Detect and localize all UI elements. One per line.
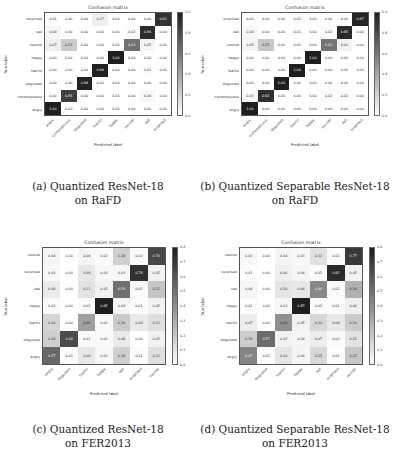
heatmap-cell: 0.00 <box>258 26 274 39</box>
heatmap-cell: 0.19 <box>240 331 257 348</box>
heatmap-grid: 0.010.000.000.070.000.000.000.910.040.00… <box>44 12 172 116</box>
heatmap-cell: 0.08 <box>113 331 130 348</box>
heatmap-cell: 0.46 <box>310 281 327 298</box>
heatmap-cell: 0.03 <box>113 265 130 282</box>
caption-line-1: (a) Quantized ResNet-18 <box>0 180 196 194</box>
heatmap-cell: 0.04 <box>292 347 309 364</box>
colorbar-tick: 0.2 <box>377 334 382 338</box>
heatmap-cell: 0.16 <box>43 314 60 331</box>
heatmap-cell: 0.00 <box>155 77 171 90</box>
colorbar-tick: 0.2 <box>185 93 190 97</box>
x-tick-label: sad <box>144 118 151 125</box>
heatmap-cell: 0.00 <box>258 51 274 64</box>
colorbar-tick: 0.8 <box>377 245 382 249</box>
colorbar-tick: 0.0 <box>180 363 185 367</box>
figure-caption: (c) Quantized ResNet-18on FER2013 <box>0 423 196 450</box>
y-tick-label: sad <box>197 287 237 291</box>
y-tick-label: sad <box>199 30 239 34</box>
heatmap-cell: 0.03 <box>292 248 309 265</box>
heatmap-cell: 0.05 <box>345 265 362 282</box>
heatmap-cell: 0.82 <box>327 265 344 282</box>
colorbar-tick: 0.5 <box>377 289 382 293</box>
heatmap-cell: 0.57 <box>43 347 60 364</box>
heatmap-cell: 0.01 <box>257 347 274 364</box>
heatmap-cell: 0.04 <box>242 26 258 39</box>
x-tick-label: neutral <box>149 367 160 378</box>
y-tick-label: contemptuous <box>199 95 239 99</box>
heatmap-cell: 0.00 <box>274 39 290 52</box>
heatmap-cell: 0.09 <box>327 314 344 331</box>
heatmap-cell: 0.00 <box>124 64 140 77</box>
heatmap-cell: 0.95 <box>337 26 353 39</box>
heatmap-cell: 0.00 <box>61 64 77 77</box>
heatmap-cell: 0.01 <box>289 26 305 39</box>
colorbar <box>374 12 380 116</box>
confusion-matrix-panel-d: Confusion matrix0.030.000.040.030.120.01… <box>197 235 393 467</box>
heatmap-cell: 0.62 <box>321 39 337 52</box>
colorbar-tick: 1.0 <box>382 10 387 14</box>
heatmap-cell: 0.00 <box>92 77 108 90</box>
heatmap-cell: 0.22 <box>148 281 165 298</box>
x-tick-label: happy <box>306 118 316 128</box>
heatmap-cell: 0.01 <box>130 298 147 315</box>
heatmap-cell: 0.06 <box>275 265 292 282</box>
heatmap-cell: 0.00 <box>321 102 337 115</box>
heatmap-cell: 0.68 <box>60 331 77 348</box>
colorbar-tick: 0.0 <box>185 114 190 118</box>
heatmap-cell: 0.04 <box>140 90 156 103</box>
heatmap-cell: 0.00 <box>305 26 321 39</box>
heatmap-cell: 0.00 <box>274 64 290 77</box>
heatmap-cell: 0.00 <box>242 51 258 64</box>
colorbar <box>172 247 178 365</box>
y-axis-title: True label <box>200 56 205 74</box>
heatmap-cell: 0.00 <box>124 13 140 26</box>
heatmap-cell: 0.00 <box>77 90 93 103</box>
heatmap-cell: 0.00 <box>77 13 93 26</box>
heatmap-cell: 0.99 <box>92 64 108 77</box>
heatmap-cell: 0.00 <box>305 77 321 90</box>
heatmap-cell: 0.00 <box>77 64 93 77</box>
heatmap-cell: 0.02 <box>130 281 147 298</box>
heatmap-cell: 0.00 <box>257 265 274 282</box>
y-axis-title: True label <box>3 298 8 316</box>
heatmap-cell: 0.00 <box>140 77 156 90</box>
heatmap-cell: 0.06 <box>337 39 353 52</box>
heatmap-cell: 0.57 <box>257 331 274 348</box>
y-tick-label: fearful <box>0 321 40 325</box>
colorbar <box>177 12 183 116</box>
chart-title: Confusion matrix <box>239 240 363 245</box>
heatmap-cell: 0.20 <box>113 314 130 331</box>
heatmap-cell: 0.04 <box>275 248 292 265</box>
heatmap-cell: 0.04 <box>292 331 309 348</box>
heatmap-cell: 0.00 <box>258 77 274 90</box>
x-tick-label: angry <box>241 367 251 377</box>
heatmap-cell: 0.00 <box>321 13 337 26</box>
heatmap-cell: 0.87 <box>292 298 309 315</box>
heatmap-cell: 0.00 <box>321 64 337 77</box>
heatmap-cell: 0.07 <box>240 314 257 331</box>
x-tick-label: neutral <box>123 118 134 129</box>
heatmap-cell: 0.00 <box>108 26 124 39</box>
y-tick-label: fearful <box>2 69 42 73</box>
heatmap-cell: 0.00 <box>352 26 368 39</box>
heatmap-cell: 0.01 <box>289 39 305 52</box>
y-tick-label: angry <box>197 355 237 359</box>
colorbar-tick: 0.8 <box>180 245 185 249</box>
heatmap-cell: 0.00 <box>155 64 171 77</box>
heatmap-cell: 0.11 <box>78 281 95 298</box>
heatmap-grid: 0.040.000.040.020.180.020.700.030.000.09… <box>42 247 166 365</box>
heatmap-cell: 0.00 <box>92 39 108 52</box>
heatmap-cell: 0.00 <box>274 26 290 39</box>
figure-caption: (b) Quantized Separable ResNet-18on RaFD <box>197 180 393 207</box>
x-tick-label: disgusted <box>72 118 86 132</box>
heatmap-cell: 0.16 <box>310 314 327 331</box>
heatmap-cell: 1.00 <box>274 77 290 90</box>
heatmap-cell: 0.01 <box>45 13 61 26</box>
heatmap-cell: 0.05 <box>292 314 309 331</box>
heatmap-cell: 0.00 <box>305 102 321 115</box>
heatmap-cell: 0.77 <box>345 248 362 265</box>
figure-caption: (a) Quantized ResNet-18on RaFD <box>0 180 196 207</box>
heatmap-cell: 0.00 <box>60 248 77 265</box>
x-tick-label: sad <box>117 367 124 374</box>
heatmap-cell: 0.47 <box>240 347 257 364</box>
